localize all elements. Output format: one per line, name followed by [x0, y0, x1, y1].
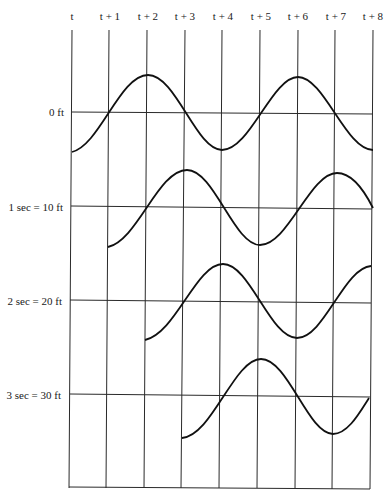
time-label-8: t + 8: [363, 10, 384, 22]
time-label-7: t + 7: [326, 10, 347, 22]
time-label-4: t + 4: [213, 10, 234, 22]
row-label-10ft: 1 sec = 10 ft: [9, 201, 63, 213]
wave-30ft: [182, 359, 369, 438]
time-label-3: t + 3: [175, 10, 196, 22]
row-label-20ft: 2 sec = 20 ft: [8, 295, 62, 307]
wave-propagation-diagram: t t + 1 t + 2 t + 3 t + 4 t + 5 t + 6 t …: [0, 0, 386, 499]
row-label-30ft: 3 sec = 30 ft: [7, 389, 61, 401]
row-labels: 0 ft 1 sec = 10 ft 2 sec = 20 ft 3 sec =…: [7, 106, 64, 401]
time-label-1: t + 1: [100, 10, 120, 22]
time-label-0: t: [70, 10, 73, 22]
time-label-5: t + 5: [251, 10, 272, 22]
row-label-0ft: 0 ft: [49, 106, 64, 118]
time-label-2: t + 2: [138, 10, 158, 22]
vertical-grid: [69, 30, 373, 489]
time-labels: t t + 1 t + 2 t + 3 t + 4 t + 5 t + 6 t …: [70, 10, 383, 22]
time-label-6: t + 6: [288, 10, 309, 22]
